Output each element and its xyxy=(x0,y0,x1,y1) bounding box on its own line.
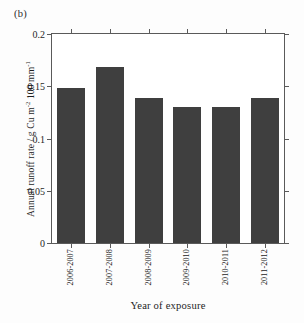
x-axis-tick xyxy=(187,243,188,248)
y-axis-tick-right xyxy=(284,139,289,140)
y-axis-tick xyxy=(47,86,52,87)
plot-frame: 00.050.10.150.2 xyxy=(51,33,285,244)
y-axis-tick-label: 0 xyxy=(40,238,45,249)
x-axis-tick xyxy=(110,243,111,248)
bar-2006-2007[interactable] xyxy=(57,88,85,243)
x-tick-label-2007-2008: 2007-2008 xyxy=(105,249,114,285)
y-axis-tick-right xyxy=(284,243,289,244)
x-tick-label-wrap: 2008-2009 xyxy=(140,249,156,297)
y-axis-tick-right xyxy=(284,34,289,35)
x-axis-tick-top xyxy=(226,29,227,34)
x-tick-label-2009-2010: 2009-2010 xyxy=(182,249,191,285)
x-axis-tick-top xyxy=(149,29,150,34)
figure-panel-b: (b) Annual runoff rate / g Cu m-2 100 mm… xyxy=(0,0,304,323)
bar-slot[interactable] xyxy=(96,34,124,243)
x-tick-label-2006-2007: 2006-2007 xyxy=(66,249,75,285)
y-axis-tick-label: 0.15 xyxy=(28,81,46,92)
x-axis-tick-top xyxy=(71,29,72,34)
bar-2007-2008[interactable] xyxy=(96,67,124,243)
y-axis-tick-right xyxy=(284,191,289,192)
y-axis-tick xyxy=(47,34,52,35)
x-tick-label-wrap: 2010-2011 xyxy=(217,249,233,297)
bar-slot[interactable] xyxy=(212,34,240,243)
bar-slot[interactable] xyxy=(173,34,201,243)
y-axis-title-prefix: Annual runoff rate / g Cu m xyxy=(25,107,36,217)
bar-2010-2011[interactable] xyxy=(212,107,240,243)
panel-label: (b) xyxy=(14,8,27,19)
bar-slot[interactable] xyxy=(57,34,85,243)
y-axis-title-sup-1: -2 xyxy=(24,102,31,108)
x-axis-tick xyxy=(71,243,72,248)
y-axis-tick-label: 0.1 xyxy=(33,133,46,144)
x-axis-tick xyxy=(149,243,150,248)
x-axis-tick-top xyxy=(110,29,111,34)
bar-slot[interactable] xyxy=(251,34,279,243)
bar-2011-2012[interactable] xyxy=(251,98,279,243)
x-axis-tick xyxy=(265,243,266,248)
x-tick-label-wrap: 2007-2008 xyxy=(101,249,117,297)
y-axis-tick-label: 0.05 xyxy=(28,185,46,196)
x-axis-tick-top xyxy=(187,29,188,34)
x-axis-tick xyxy=(226,243,227,248)
x-tick-label-wrap: 2009-2010 xyxy=(178,249,194,297)
y-axis-title-sup-2: -1 xyxy=(24,61,31,67)
x-tick-label-2008-2009: 2008-2009 xyxy=(143,249,152,285)
x-axis-title: Year of exposure xyxy=(51,300,285,311)
bar-slot[interactable] xyxy=(135,34,163,243)
y-axis-tick xyxy=(47,139,52,140)
y-axis-tick xyxy=(47,191,52,192)
x-tick-label-wrap: 2006-2007 xyxy=(62,249,78,297)
x-tick-label-2011-2012: 2011-2012 xyxy=(259,249,268,285)
y-axis-tick-right xyxy=(284,86,289,87)
x-axis-tick-top xyxy=(265,29,266,34)
x-tick-label-2010-2011: 2010-2011 xyxy=(221,249,230,285)
y-axis-tick-label: 0.2 xyxy=(33,29,46,40)
bar-2009-2010[interactable] xyxy=(173,107,201,243)
y-axis-tick xyxy=(47,243,52,244)
bar-2008-2009[interactable] xyxy=(135,98,163,243)
x-tick-label-wrap: 2011-2012 xyxy=(256,249,272,297)
plot-area: 00.050.10.150.2 xyxy=(52,34,284,243)
